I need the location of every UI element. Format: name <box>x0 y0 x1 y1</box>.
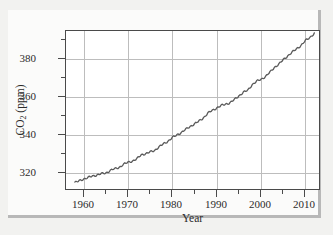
y-tick-minor <box>61 153 65 154</box>
x-tick-label: 2010 <box>281 199 327 210</box>
x-tick-major <box>304 190 305 197</box>
y-tick-minor <box>61 115 65 116</box>
y-tick-major <box>58 172 65 173</box>
x-tick-minor <box>238 190 239 194</box>
x-tick-major <box>171 190 172 197</box>
x-tick-major <box>127 190 128 197</box>
y-tick-major <box>58 96 65 97</box>
y-tick-minor <box>61 77 65 78</box>
co2-line-chart <box>66 31 320 190</box>
y-axis-title: CO2 (ppm) <box>15 50 28 170</box>
y-tick-minor <box>61 39 65 40</box>
x-axis-title: Year <box>65 213 320 225</box>
x-tick-minor <box>194 190 195 194</box>
x-tick-minor <box>105 190 106 194</box>
x-tick-major <box>260 190 261 197</box>
y-axis-title-suffix: (ppm) <box>14 85 26 116</box>
x-tick-label: 1990 <box>193 199 239 210</box>
x-tick-minor <box>282 190 283 194</box>
y-axis-title-prefix: CO <box>14 120 26 136</box>
x-tick-label: 1960 <box>60 199 106 210</box>
x-tick-label: 1970 <box>104 199 150 210</box>
x-tick-label: 1980 <box>148 199 194 210</box>
x-tick-label: 2000 <box>237 199 283 210</box>
y-tick-major <box>58 58 65 59</box>
figure-card: 320340360380 196019701980199020002010 Ye… <box>8 10 321 218</box>
y-tick-major <box>58 134 65 135</box>
figure-root: 320340360380 196019701980199020002010 Ye… <box>0 0 333 235</box>
y-axis-title-subscript: 2 <box>19 116 28 120</box>
x-tick-minor <box>149 190 150 194</box>
x-tick-major <box>83 190 84 197</box>
plot-area <box>65 30 320 190</box>
x-tick-major <box>216 190 217 197</box>
co2-data-line <box>75 33 314 182</box>
